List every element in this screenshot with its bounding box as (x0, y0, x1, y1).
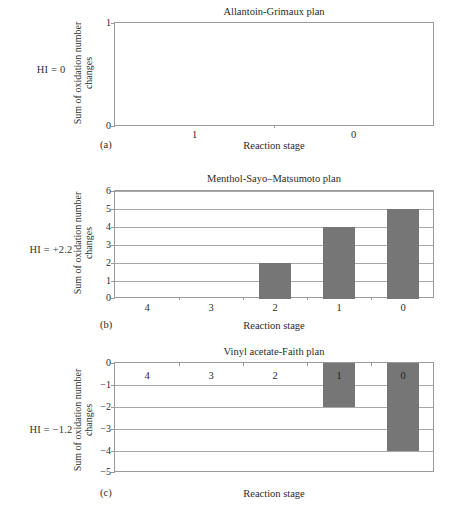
gridline-c-m1 (115, 385, 433, 386)
y-tick-label-a-0: 1 (106, 18, 111, 28)
y-tick-label-c-4: −4 (100, 446, 111, 456)
gridline-b-5 (115, 209, 433, 210)
y-tick-label-b-0: 6 (106, 186, 111, 196)
y-tickmark-c-m2 (111, 407, 115, 408)
chart-title-b: Menthol-Sayo–Matsumoto plan (114, 173, 434, 184)
panel-vinyl-acetate-faith: Vinyl acetate-Faith plan HI = −1.2 Sum o… (0, 340, 452, 518)
bar-b-stage-2 (259, 263, 291, 299)
x-tick-label-c-1: 3 (196, 370, 226, 381)
y-tick-label-c-3: −3 (100, 424, 111, 434)
y-tickmark-c-m1 (111, 385, 115, 386)
y-axis-title-b: Sum of oxidation number changes (72, 178, 94, 308)
y-axis-title-a: Sum of oxidation number changes (72, 18, 94, 128)
x-tick-label-a-1: 0 (339, 129, 369, 140)
x-tickmark-c-3 (307, 363, 308, 366)
y-axis-title-b-line1: Sum of oxidation number (72, 178, 83, 308)
x-tick-label-c-4: 0 (388, 370, 418, 381)
plot-area-b: 6 5 4 3 2 1 0 4 3 2 1 0 (114, 190, 434, 298)
y-tick-label-c-1: −1 (100, 380, 111, 390)
y-axis-title-a-line1: Sum of oxidation number (72, 18, 83, 128)
y-tickmark-c-0 (111, 363, 115, 364)
x-tickmark-a-mid (274, 125, 275, 128)
y-tick-label-c-2: −2 (100, 402, 111, 412)
y-tick-label-a-1: 0 (106, 121, 111, 131)
y-tickmark-a-0 (111, 126, 115, 127)
y-tickmark-b-6 (111, 191, 115, 192)
y-tickmark-b-4 (111, 227, 115, 228)
y-tick-label-b-3: 3 (106, 240, 111, 250)
x-tick-label-b-0: 4 (132, 302, 162, 313)
subfigure-label-c: (c) (100, 487, 112, 498)
x-tick-label-b-4: 0 (388, 302, 418, 313)
y-tick-label-b-1: 5 (106, 204, 111, 214)
gridline-b-3 (115, 245, 433, 246)
x-tick-label-a-0: 1 (180, 129, 210, 140)
panel-allantoin-grimaux: Allantoin-Grimaux plan HI = 0 Sum of oxi… (0, 0, 452, 160)
y-tickmark-b-0 (111, 298, 115, 299)
subfigure-label-b: (b) (100, 319, 112, 330)
x-tickmark-b-1 (179, 297, 180, 300)
gridline-c-m2 (115, 407, 433, 408)
y-tickmark-b-1 (111, 281, 115, 282)
y-tick-label-c-0: 0 (106, 358, 111, 368)
y-axis-title-c-line2: changes (83, 355, 94, 485)
y-tick-label-b-2: 4 (106, 222, 111, 232)
y-tick-label-b-5: 1 (106, 276, 111, 286)
y-tickmark-c-m5 (111, 472, 115, 473)
y-tick-label-b-6: 0 (106, 293, 111, 303)
subfigure-label-a: (a) (100, 139, 112, 150)
chart-title-a: Allantoin-Grimaux plan (114, 6, 434, 17)
y-axis-title-a-line2: changes (83, 18, 94, 128)
x-tickmark-c-4 (371, 363, 372, 366)
y-axis-title-b-line2: changes (83, 178, 94, 308)
x-axis-title-a: Reaction stage (114, 140, 434, 151)
gridline-b-4 (115, 227, 433, 228)
x-tick-label-c-0: 4 (132, 370, 162, 381)
gridline-c-m3 (115, 429, 433, 430)
x-tickmark-b-2 (243, 297, 244, 300)
bar-b-stage-0 (387, 209, 419, 299)
x-axis-title-c: Reaction stage (114, 488, 434, 499)
y-tickmark-b-2 (111, 263, 115, 264)
y-tick-label-c-5: −5 (100, 467, 111, 477)
x-tickmark-c-1 (179, 363, 180, 366)
x-tickmark-b-3 (307, 297, 308, 300)
x-tick-label-b-3: 1 (324, 302, 354, 313)
y-tickmark-b-5 (111, 209, 115, 210)
x-tickmark-c-2 (243, 363, 244, 366)
x-tick-label-c-2: 2 (260, 370, 290, 381)
chart-title-c: Vinyl acetate-Faith plan (114, 346, 434, 357)
panel-menthol-sayo-matsumoto: Menthol-Sayo–Matsumoto plan HI = +2.2 Su… (0, 160, 452, 340)
y-tickmark-c-m3 (111, 429, 115, 430)
y-tickmark-b-3 (111, 245, 115, 246)
x-tick-label-b-2: 2 (260, 302, 290, 313)
x-tickmark-b-4 (371, 297, 372, 300)
gridline-c-m4 (115, 451, 433, 452)
x-tick-label-c-3: 1 (324, 370, 354, 381)
gridline-b-6 (115, 191, 433, 192)
y-axis-title-c: Sum of oxidation number changes (72, 355, 94, 485)
bar-b-stage-1 (323, 227, 355, 299)
y-tick-label-b-4: 2 (106, 258, 111, 268)
plot-area-c: 0 −1 −2 −3 −4 −5 4 3 2 1 0 (114, 362, 434, 472)
y-tickmark-a-1 (111, 23, 115, 24)
plot-area-a: 1 0 1 0 (114, 22, 434, 126)
x-axis-title-b: Reaction stage (114, 320, 434, 331)
y-axis-title-c-line1: Sum of oxidation number (72, 355, 83, 485)
x-tick-label-b-1: 3 (196, 302, 226, 313)
y-tickmark-c-m4 (111, 451, 115, 452)
